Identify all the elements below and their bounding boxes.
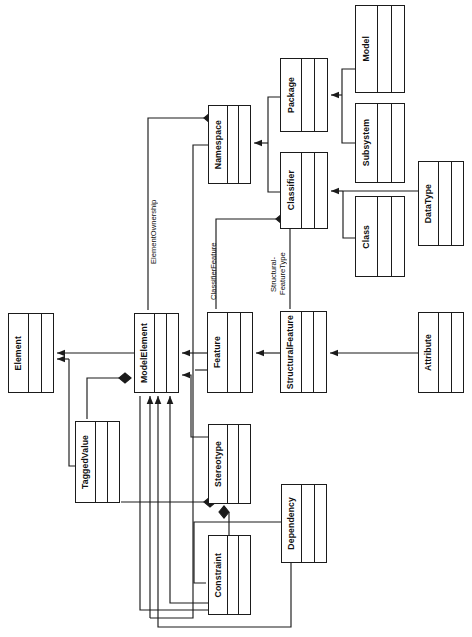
class-name-compartment: Constraint [209, 536, 228, 614]
class-name-compartment: Package [281, 59, 302, 131]
class-name-compartment: Feature [208, 313, 228, 392]
generalization-taggedvalue-to-element [57, 359, 75, 466]
class-operations-compartment [452, 162, 463, 245]
class-operations-compartment [315, 153, 327, 228]
class-label: Attribute [424, 334, 433, 371]
class-operations-compartment [392, 6, 404, 92]
class-operations-compartment [42, 314, 53, 392]
class-operations-compartment [239, 106, 250, 183]
class-operations-compartment [452, 313, 463, 392]
class-name-compartment: StructuralFeature [281, 312, 302, 392]
generalization-constraint-to-modelelement [170, 396, 208, 603]
class-attributes-compartment [155, 314, 167, 392]
class-box-modelelement[interactable]: ModelElement [134, 313, 179, 393]
class-box-constraint[interactable]: Constraint [208, 535, 251, 615]
class-box-class[interactable]: Class [355, 196, 405, 277]
generalization-package-to-namespace [268, 97, 280, 143]
class-operations-compartment [315, 59, 327, 131]
class-box-dependency[interactable]: Dependency [281, 484, 327, 563]
class-name-compartment: Class [356, 197, 378, 276]
class-attributes-compartment [439, 162, 451, 245]
class-box-attribute[interactable]: Attribute [418, 312, 464, 393]
class-box-stereotype[interactable]: Stereotype [208, 424, 251, 504]
class-label: Classifier [287, 170, 296, 210]
class-attributes-compartment [378, 104, 391, 182]
composition-classifier-owns-feature [216, 219, 276, 309]
class-box-namespace[interactable]: Namespace [208, 105, 251, 184]
class-operations-compartment [314, 312, 326, 392]
class-box-package[interactable]: Package [280, 58, 328, 132]
class-label: Model [362, 36, 371, 62]
class-box-subsystem[interactable]: Subsystem [355, 103, 405, 183]
association-label-element-ownership: ElementOwnership [150, 186, 162, 278]
class-label: Class [362, 225, 371, 249]
class-operations-compartment [108, 422, 119, 502]
composition-diamond-modelelement [119, 373, 131, 383]
class-operations-compartment [315, 485, 326, 562]
generalization-subsystem-to-package [342, 95, 355, 143]
association-label-structural-feature-type: Structural-FeatureType [270, 240, 292, 308]
class-name-compartment: Subsystem [356, 104, 378, 182]
class-attributes-compartment [378, 197, 391, 276]
generalization-stereotype-to-modelelement [182, 375, 208, 437]
class-box-element[interactable]: Element [8, 313, 54, 393]
class-name-compartment: Attribute [419, 313, 439, 392]
class-name-compartment: Stereotype [209, 425, 228, 503]
class-name-compartment: TaggedValue [76, 422, 96, 502]
generalization-classifier-to-namespace [268, 143, 280, 192]
class-attributes-compartment [228, 536, 240, 614]
class-box-classifier[interactable]: Classifier [280, 152, 328, 229]
class-label: StructuralFeature [286, 315, 295, 389]
class-label: Stereotype [214, 441, 223, 487]
class-name-compartment: Namespace [209, 106, 228, 183]
class-operations-compartment [239, 425, 250, 503]
class-name-compartment: Model [356, 6, 378, 92]
class-name-compartment: ModelElement [135, 314, 155, 392]
class-label: Constraint [214, 553, 223, 597]
uml-class-diagram-canvas: Model Subsystem Class DataType Package [0, 0, 472, 637]
class-operations-compartment [167, 314, 178, 392]
class-attributes-compartment [302, 153, 315, 228]
class-label: Element [14, 336, 23, 371]
composition-diamond-stereotype-constraint [219, 506, 229, 518]
class-name-compartment: DataType [419, 162, 439, 245]
class-box-datatype[interactable]: DataType [418, 161, 464, 246]
class-attributes-compartment [302, 59, 315, 131]
generalization-class-to-classifier [343, 191, 355, 238]
class-attributes-compartment [302, 312, 315, 392]
class-operations-compartment [241, 313, 252, 392]
class-attributes-compartment [302, 485, 314, 562]
association-label-classifier-feature: ClassifierFeature [210, 232, 222, 310]
composition-modelelement-owns-taggedvalue [87, 378, 131, 419]
class-operations-compartment [392, 197, 404, 276]
generalization-model-to-package [342, 69, 355, 95]
class-box-model[interactable]: Model [355, 5, 405, 93]
class-name-compartment: Classifier [281, 153, 302, 228]
class-attributes-compartment [96, 422, 108, 502]
class-attributes-compartment [228, 425, 240, 503]
class-label: Dependency [287, 497, 296, 550]
class-box-structuralfeature[interactable]: StructuralFeature [280, 311, 327, 393]
class-label: Subsystem [362, 119, 371, 166]
class-label: DataType [424, 184, 433, 223]
class-name-compartment: Dependency [282, 485, 302, 562]
class-label: Namespace [214, 120, 223, 169]
class-name-compartment: Element [9, 314, 29, 392]
class-attributes-compartment [378, 6, 391, 92]
class-label: Package [287, 77, 296, 113]
class-operations-compartment [392, 104, 404, 182]
class-attributes-compartment [29, 314, 41, 392]
class-box-feature[interactable]: Feature [207, 312, 253, 393]
class-label: TaggedValue [81, 435, 90, 489]
class-label: Feature [213, 336, 222, 368]
class-label: ModelElement [140, 323, 149, 383]
class-attributes-compartment [228, 106, 240, 183]
class-attributes-compartment [439, 313, 451, 392]
class-box-taggedvalue[interactable]: TaggedValue [75, 421, 120, 503]
class-operations-compartment [239, 536, 250, 614]
class-attributes-compartment [228, 313, 240, 392]
